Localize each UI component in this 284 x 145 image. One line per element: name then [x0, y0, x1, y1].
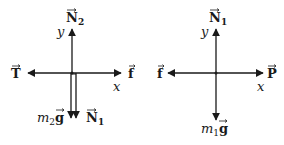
- origin-point: [71, 72, 74, 75]
- label-up-force: N2: [66, 9, 84, 28]
- label-right-force: P: [267, 65, 277, 82]
- y-axis-label: y: [200, 24, 209, 39]
- svg-text:m1g: m1g: [201, 121, 228, 138]
- x-axis-label: x: [257, 79, 265, 94]
- label-right-force: f: [128, 65, 135, 82]
- svg-text:P: P: [267, 66, 277, 81]
- label-weight-force: m2g: [37, 109, 64, 128]
- x-axis-label: x: [113, 79, 121, 94]
- svg-text:f: f: [157, 66, 164, 81]
- svg-text:N1: N1: [209, 10, 227, 27]
- diagram-left: N2 y T f x m2g N1: [11, 9, 135, 128]
- svg-text:N2: N2: [66, 10, 84, 27]
- diagram-right: N1 y f P x m1g: [157, 9, 277, 139]
- y-axis-label: y: [56, 24, 65, 39]
- svg-text:T: T: [11, 66, 21, 81]
- label-left-force: T: [11, 65, 21, 82]
- label-up-force: N1: [209, 9, 227, 28]
- label-weight-force: m1g: [201, 120, 228, 139]
- origin-point: [215, 72, 218, 75]
- svg-text:f: f: [128, 66, 135, 81]
- svg-text:N1: N1: [86, 110, 104, 127]
- svg-text:m2g: m2g: [37, 110, 64, 127]
- label-normal-force-down: N1: [86, 109, 104, 128]
- free-body-diagrams: N2 y T f x m2g N1 N1: [0, 0, 284, 145]
- label-left-force: f: [157, 65, 164, 82]
